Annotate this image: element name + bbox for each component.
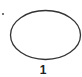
ellipse-shape [11,11,81,60]
ellipse-label: 1 [37,63,49,77]
dot-marker [2,13,4,15]
